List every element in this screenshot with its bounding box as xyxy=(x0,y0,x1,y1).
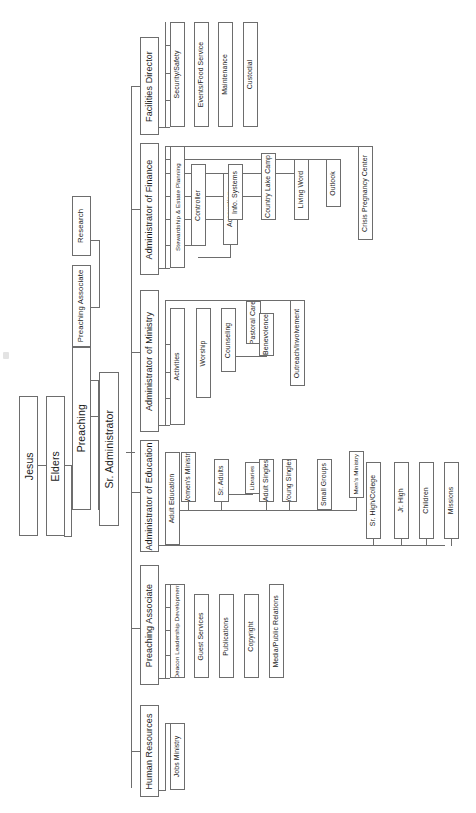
node-research[interactable]: Research xyxy=(72,196,91,256)
node-administrator-of-education[interactable]: Administrator of Education xyxy=(140,440,159,552)
connector-associate-research-v xyxy=(99,240,100,308)
node-preaching-associate-top[interactable]: Preaching Associate xyxy=(72,265,91,347)
node-adult-singles[interactable]: Adult Singles xyxy=(259,459,274,502)
connector-education-lower-bus xyxy=(165,545,445,546)
node-mens-ministry[interactable]: Men's Ministry xyxy=(349,451,364,498)
connector-spine-finance xyxy=(131,209,140,210)
connector-ministry-activities xyxy=(165,425,170,426)
node-missions[interactable]: Missions xyxy=(444,462,459,539)
connector-adulted-adultsingles xyxy=(266,502,267,511)
node-jesus[interactable]: Jesus xyxy=(19,396,38,536)
node-country-lake-camp-label: Country Lake Camp xyxy=(265,155,272,218)
connector-hr-jobs-v xyxy=(165,723,166,791)
node-info-systems[interactable]: Info. Systems xyxy=(228,164,243,220)
node-activities[interactable]: Activities xyxy=(170,308,185,425)
connector-adulted-womens xyxy=(188,502,189,511)
connector-spine-human-resources xyxy=(131,751,140,752)
node-young-singles-label: Young Singles xyxy=(286,459,293,502)
connector-pastoral-benevolence-h xyxy=(234,356,267,357)
node-publications[interactable]: Publications xyxy=(219,594,234,678)
node-outreach-involvement-label: Outreach/Involvement xyxy=(294,308,301,377)
node-adult-education[interactable]: Adult Education xyxy=(165,452,180,545)
node-mens-ministry-label: Men's Ministry xyxy=(353,454,359,495)
connector-preaching-to-associate xyxy=(90,380,99,381)
node-preaching[interactable]: Preaching xyxy=(72,347,91,510)
connector-education-missions xyxy=(451,538,452,546)
node-administrator-of-finance-label: Administrator of Finance xyxy=(145,159,154,259)
node-children[interactable]: Children xyxy=(419,462,434,539)
node-stewardship-estate-planning[interactable]: Stewardship & Estate Planning xyxy=(170,146,185,268)
node-outlook-label: Outlook xyxy=(330,171,337,195)
node-media-public-relations-label: Media/Public Relations xyxy=(273,595,280,667)
node-sr-adults[interactable]: Sr. Adults xyxy=(214,459,229,502)
node-missions-label: Missions xyxy=(448,487,455,515)
node-adult-education-label: Adult Education xyxy=(169,474,176,524)
node-jr-high-label: Jr. High xyxy=(398,488,405,512)
node-custodial[interactable]: Custodial xyxy=(243,22,258,127)
connector-education-children xyxy=(426,538,427,546)
node-security-safety-label: Security/Safety xyxy=(174,51,181,99)
node-country-lake-camp[interactable]: Country Lake Camp xyxy=(261,153,276,220)
node-preaching-associate-label: Preaching Associate xyxy=(145,583,154,666)
connector-ministry-bus xyxy=(165,300,166,426)
node-deacon-leadership-development[interactable]: Deacon Leadership Development xyxy=(170,584,185,678)
node-events-food-service[interactable]: Events/Food Service xyxy=(194,22,209,127)
node-counseling[interactable]: Counseling xyxy=(221,308,236,372)
node-security-safety[interactable]: Security/Safety xyxy=(170,22,185,127)
connector-smallgroups-mens-v xyxy=(356,498,357,510)
node-publications-label: Publications xyxy=(223,617,230,655)
node-copyright-label: Copyright xyxy=(248,621,255,651)
node-preaching-associate[interactable]: Preaching Associate xyxy=(140,565,159,685)
node-guest-services[interactable]: Guest Services xyxy=(194,594,209,678)
connector-elders-preaching-top xyxy=(64,465,72,466)
node-children-label: Children xyxy=(423,487,430,513)
node-worship[interactable]: Worship xyxy=(196,308,211,398)
node-media-public-relations[interactable]: Media/Public Relations xyxy=(269,584,284,678)
node-pastoral-care-label: Pastoral Care xyxy=(250,301,257,344)
org-chart-canvas: Jesus Elders Preaching Preaching Associa… xyxy=(0,0,476,813)
node-maintenance-label: Maintenance xyxy=(222,54,229,95)
node-custodial-label: Custodial xyxy=(247,60,254,90)
connector-pa-bus xyxy=(165,584,166,679)
node-administrator-of-finance[interactable]: Administrator of Finance xyxy=(140,143,159,275)
node-copyright[interactable]: Copyright xyxy=(244,594,259,678)
node-maintenance[interactable]: Maintenance xyxy=(218,22,233,127)
node-libraries-label: Libraries xyxy=(249,466,255,491)
node-events-food-service-label: Events/Food Service xyxy=(198,42,205,107)
node-preaching-label: Preaching xyxy=(76,404,87,452)
node-womens-ministry-label: Women's Ministry xyxy=(185,452,192,502)
node-administrator-of-education-label: Administrator of Education xyxy=(145,442,154,550)
connector-jesus-elders xyxy=(37,465,46,466)
node-deacon-leadership-development-label: Deacon Leadership Development xyxy=(174,584,180,678)
node-benevolence[interactable]: Benevolence xyxy=(259,313,274,356)
connector-finance-bus xyxy=(165,146,166,269)
node-benevolence-label: Benevolence xyxy=(263,314,270,355)
node-libraries[interactable]: Libraries xyxy=(245,462,260,494)
node-stewardship-estate-planning-label: Stewardship & Estate Planning xyxy=(174,163,180,251)
node-sr-adults-label: Sr. Adults xyxy=(218,465,225,495)
node-sr-high-college[interactable]: Sr. High/College xyxy=(366,462,381,539)
node-controller-label: Controller xyxy=(195,190,202,221)
connector-ministry-outreach xyxy=(165,300,305,301)
node-counseling-label: Counseling xyxy=(225,322,232,357)
scan-artifact xyxy=(3,352,9,359)
node-sr-administrator[interactable]: Sr. Administrator xyxy=(99,372,119,526)
node-jr-high[interactable]: Jr. High xyxy=(394,462,409,539)
connector-controller-accounting-h xyxy=(198,257,231,258)
connector-controller-accounting-v xyxy=(230,245,231,257)
node-young-singles[interactable]: Young Singles xyxy=(282,459,297,502)
node-elders[interactable]: Elders xyxy=(46,396,65,536)
node-crisis-pregnancy-center[interactable]: Crisis Pregnancy Center xyxy=(358,146,373,240)
node-living-word[interactable]: Living Word xyxy=(294,159,309,220)
node-outlook[interactable]: Outlook xyxy=(326,159,341,207)
node-outreach-involvement[interactable]: Outreach/Involvement xyxy=(290,300,305,386)
node-adult-singles-label: Adult Singles xyxy=(263,460,270,502)
node-human-resources[interactable]: Human Resources xyxy=(140,705,159,797)
node-administrator-of-ministry[interactable]: Administrator of Ministry xyxy=(140,290,159,432)
node-facilities-director[interactable]: Facilities Director xyxy=(140,37,159,135)
node-controller[interactable]: Controller xyxy=(191,164,206,246)
node-small-groups[interactable]: Small Groups xyxy=(317,459,332,510)
node-womens-ministry[interactable]: Women's Ministry xyxy=(181,452,196,502)
node-jobs-ministry[interactable]: Jobs Ministry xyxy=(170,723,185,790)
node-research-label: Research xyxy=(78,209,86,243)
